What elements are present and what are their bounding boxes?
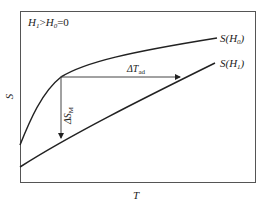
delta-t-subscript: ad	[138, 68, 145, 76]
curve-label-close: )	[241, 57, 245, 69]
h0-symbol: H	[46, 16, 54, 28]
delta-s-m-label: ΔSM	[63, 107, 75, 124]
x-axis-label: T	[133, 190, 139, 201]
y-axis-label: S	[4, 94, 15, 100]
delta-t-ad-label: ΔTad	[127, 64, 145, 76]
h1-symbol: H	[28, 16, 36, 28]
curve-label-s-h0: S(H0)	[220, 33, 244, 46]
delta-s-subscript: M	[67, 107, 75, 113]
delta-t-main: ΔT	[127, 63, 138, 74]
equals-zero: =0	[57, 16, 69, 28]
curve-label-close: )	[241, 32, 245, 44]
curve-label-main: S(H	[220, 57, 237, 69]
curve-label-s-h1: S(H1)	[220, 58, 244, 71]
curve-s-h0	[20, 38, 217, 145]
field-condition-label: H1>H0=0	[28, 17, 69, 30]
delta-s-main: ΔS	[62, 113, 73, 124]
curve-label-main: S(H	[220, 32, 237, 44]
curve-s-h1	[20, 63, 215, 167]
